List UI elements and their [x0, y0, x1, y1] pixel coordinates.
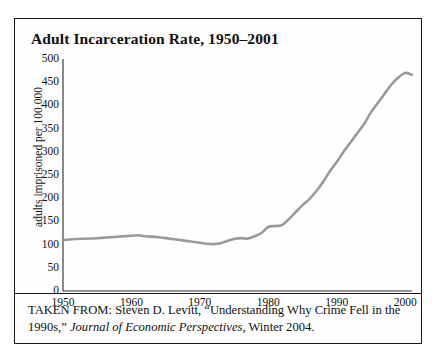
- chart-plot-area: adults imprisoned per 100,000 0501001502…: [15, 59, 420, 291]
- caption-divider: [15, 293, 421, 294]
- source-caption: TAKEN FROM: Steven D. Levitt, “Understan…: [28, 302, 408, 336]
- incarceration-rate-line-chart: [15, 59, 420, 291]
- chart-title: Adult Incarceration Rate, 1950–2001: [31, 30, 279, 48]
- data-series-line: [63, 73, 412, 244]
- figure-box: Adult Incarceration Rate, 1950–2001 adul…: [14, 18, 422, 344]
- caption-text-tail: , Winter 2004.: [242, 320, 314, 334]
- caption-journal-name: Journal of Economic Perspectives: [70, 320, 242, 334]
